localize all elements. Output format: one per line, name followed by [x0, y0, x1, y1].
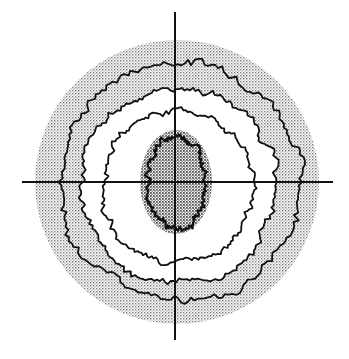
visual-field-diagram [0, 0, 349, 359]
isopter-plot [0, 0, 349, 359]
